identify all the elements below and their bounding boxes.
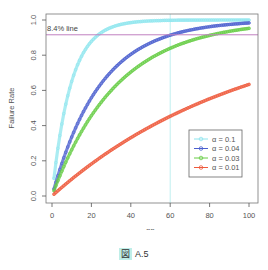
x-tick-label: 80 [205, 211, 213, 220]
chart-canvas: 8.4% line0204060801000.00.20.40.60.81.0n… [0, 0, 268, 230]
legend-label: α = 0.1 [212, 135, 235, 144]
x-tick-label: 100 [243, 211, 256, 220]
figure-caption: 図 A.5 [0, 247, 268, 260]
threshold-line-label: 8.4% line [47, 24, 78, 33]
caption-label: A.5 [135, 249, 149, 259]
failure-rate-chart: 8.4% line0204060801000.00.20.40.60.81.0n… [0, 0, 268, 230]
caption-prefix: 図 [119, 248, 132, 260]
y-tick-label: 1.0 [29, 15, 38, 25]
x-tick-label: 60 [166, 211, 174, 220]
x-tick-label: 0 [50, 211, 54, 220]
y-tick-label: 0.0 [29, 191, 38, 201]
y-tick-label: 0.8 [29, 50, 38, 60]
x-tick-label: 40 [127, 211, 135, 220]
x-tick-label: 20 [87, 211, 95, 220]
x-axis-label: nn [146, 226, 154, 230]
y-axis-label: Failure Rate [7, 88, 16, 129]
legend-label: α = 0.01 [212, 163, 239, 172]
legend-label: α = 0.04 [212, 144, 239, 153]
legend-label: α = 0.03 [212, 154, 239, 163]
y-tick-label: 0.6 [29, 85, 38, 95]
y-tick-label: 0.4 [29, 120, 38, 130]
y-tick-label: 0.2 [29, 156, 38, 166]
